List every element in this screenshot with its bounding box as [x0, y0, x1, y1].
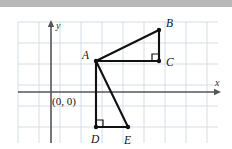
x-axis-label: x: [214, 77, 220, 88]
x-axis-arrowhead: [214, 89, 221, 95]
point-label-B: B: [166, 17, 173, 29]
grid-lines: [18, 22, 218, 143]
figure-segments: [96, 30, 159, 127]
coordinate-axes: xy(0, 0): [18, 20, 221, 143]
point-label-C: C: [166, 56, 174, 68]
segment-A-B: [96, 30, 159, 61]
vertex-E: [126, 125, 130, 129]
vertex-A: [94, 59, 98, 63]
geometry-figure: xy(0, 0) ABCDE: [0, 0, 232, 149]
origin-label: (0, 0): [52, 95, 76, 108]
point-label-A: A: [81, 49, 90, 61]
right-angle-markers: [96, 54, 159, 127]
vertex-C: [157, 59, 161, 63]
vertex-D: [94, 125, 98, 129]
point-label-E: E: [123, 134, 131, 146]
vertex-B: [157, 28, 161, 32]
y-axis-arrowhead: [48, 20, 54, 27]
figure-page: xy(0, 0) ABCDE: [0, 0, 232, 149]
point-label-D: D: [90, 133, 100, 145]
y-axis-label: y: [55, 20, 61, 31]
